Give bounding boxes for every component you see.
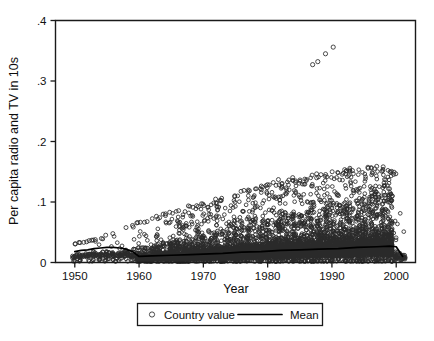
data-point [318, 209, 322, 213]
data-point [222, 213, 226, 217]
y-tick-label: .3 [37, 75, 47, 87]
data-point [215, 219, 219, 223]
data-point [115, 241, 119, 245]
x-tick-label: 2000 [383, 270, 409, 282]
data-point [176, 215, 180, 219]
data-point [221, 217, 225, 221]
data-point [97, 243, 101, 247]
data-point [246, 194, 250, 198]
data-point [170, 217, 174, 221]
y-tick-label: .2 [37, 136, 47, 148]
data-point [357, 168, 361, 172]
x-tick-label: 1980 [255, 270, 281, 282]
x-axis-title: Year [223, 282, 248, 296]
country-value-scatter [71, 45, 407, 263]
data-point [104, 233, 108, 237]
legend-label-country-value: Country value [164, 309, 235, 321]
data-point [138, 230, 142, 234]
data-point [251, 201, 255, 205]
data-point [402, 230, 406, 234]
data-point [300, 202, 304, 206]
data-point [259, 206, 263, 210]
data-point [319, 173, 323, 177]
data-point [345, 198, 349, 202]
x-axis-ticks: 195019601970198019902000 [62, 263, 409, 282]
data-point [293, 200, 297, 204]
data-point [156, 227, 160, 231]
data-point [276, 178, 280, 182]
data-point [381, 165, 385, 169]
data-point [181, 213, 185, 217]
data-point [244, 203, 248, 207]
data-point [309, 192, 313, 196]
data-point [283, 202, 287, 206]
x-tick-label: 1960 [126, 270, 152, 282]
data-point [146, 238, 150, 242]
y-axis-title: Per capita radio and TV in 10s [7, 57, 21, 225]
data-point [171, 234, 175, 238]
data-point [137, 242, 141, 246]
data-point [223, 206, 227, 210]
data-point [330, 185, 334, 189]
data-point [323, 52, 327, 56]
legend-label-mean: Mean [290, 309, 319, 321]
data-point [311, 63, 315, 67]
data-point [374, 184, 378, 188]
x-tick-label: 1970 [191, 270, 217, 282]
data-point [356, 173, 360, 177]
data-point [335, 225, 339, 229]
data-point [294, 184, 298, 188]
data-point [238, 215, 242, 219]
data-point [330, 170, 334, 174]
data-point [232, 215, 236, 219]
x-tick-label: 1950 [62, 270, 88, 282]
chart-legend: Country value Mean [138, 304, 323, 326]
data-point [267, 197, 271, 201]
data-point [316, 60, 320, 64]
data-point [120, 244, 124, 248]
y-axis-ticks: 0.1.2.3.4 [37, 15, 56, 269]
data-point [322, 187, 326, 191]
data-point [228, 209, 232, 213]
data-point [177, 209, 181, 213]
data-point [124, 226, 128, 230]
chart-figure: 195019601970198019902000 0.1.2.3.4 Year … [0, 0, 434, 341]
data-point [145, 220, 149, 224]
data-point [398, 211, 402, 215]
y-tick-label: .1 [37, 196, 47, 208]
data-point [253, 214, 257, 218]
data-point [315, 172, 319, 176]
data-point [321, 181, 325, 185]
data-point [302, 192, 306, 196]
data-point [195, 220, 199, 224]
data-point [326, 185, 330, 189]
data-point [237, 200, 241, 204]
data-point [261, 214, 265, 218]
data-point [350, 194, 354, 198]
data-point [325, 192, 329, 196]
data-point [362, 184, 366, 188]
scatter-plot: 195019601970198019902000 0.1.2.3.4 Year … [0, 0, 434, 341]
data-point [323, 179, 327, 183]
data-point [150, 217, 154, 221]
y-tick-label: .4 [37, 15, 47, 27]
data-point [270, 190, 274, 194]
data-point [263, 211, 267, 215]
data-point [214, 197, 218, 201]
data-point [354, 180, 358, 184]
data-point [331, 45, 335, 49]
data-point [138, 234, 142, 238]
data-point [132, 238, 136, 242]
data-point [363, 192, 367, 196]
data-point [199, 207, 203, 211]
x-tick-label: 1990 [319, 270, 345, 282]
y-tick-label: 0 [40, 257, 46, 269]
data-point [247, 198, 251, 202]
